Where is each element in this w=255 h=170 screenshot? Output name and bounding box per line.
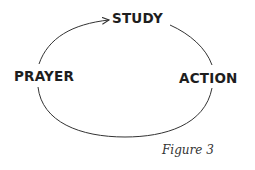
node-prayer: PRAYER xyxy=(14,70,74,84)
node-study: STUDY xyxy=(112,12,163,26)
arc-study-to-action xyxy=(170,25,212,65)
node-action: ACTION xyxy=(179,72,238,86)
arc-prayer-to-study xyxy=(39,20,109,64)
figure-caption: Figure 3 xyxy=(162,144,214,156)
arc-action-to-prayer xyxy=(38,87,212,137)
